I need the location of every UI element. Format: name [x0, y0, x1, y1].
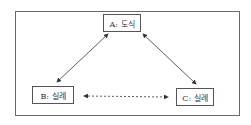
edge-a-c [143, 34, 196, 84]
node-c-label: C: 실례 [182, 92, 207, 103]
node-a-schema: A: 도식 [103, 14, 141, 32]
edge-a-b [57, 34, 108, 82]
node-c-instance: C: 실례 [176, 88, 214, 106]
edge-b-c [84, 96, 168, 97]
node-b-instance: B: 실례 [32, 86, 74, 104]
node-a-label: A: 도식 [109, 18, 134, 29]
node-b-label: B: 실례 [40, 90, 65, 101]
